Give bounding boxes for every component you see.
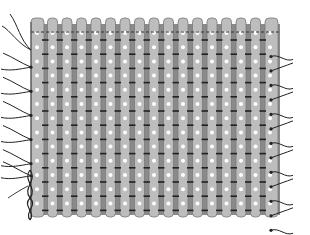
white-dot: [210, 201, 214, 205]
weft-bar: [100, 82, 107, 84]
weft-bar: [158, 68, 165, 70]
weft-bar: [187, 167, 194, 169]
white-dot: [65, 145, 69, 149]
white-dot: [225, 201, 229, 205]
white-dot: [109, 187, 113, 191]
weft-bar: [100, 39, 107, 41]
weft-bar: [158, 153, 165, 155]
white-dot: [109, 88, 113, 92]
weft-bar: [42, 153, 49, 155]
weft-bar: [115, 110, 122, 112]
left-thread: [10, 14, 31, 50]
left-thread: [8, 186, 28, 198]
white-dot: [254, 74, 258, 78]
white-dot: [35, 74, 39, 78]
white-dot: [35, 102, 39, 106]
white-dot: [138, 116, 142, 120]
weft-bar: [158, 96, 165, 98]
left-thread: [1, 67, 31, 70]
weft-bar: [57, 124, 64, 126]
white-dot: [80, 130, 84, 134]
weft-bar: [231, 110, 238, 112]
weft-bar: [86, 68, 93, 70]
white-dot: [181, 59, 185, 63]
weft-bar: [71, 82, 78, 84]
weft-bar: [158, 195, 165, 197]
white-dot: [65, 59, 69, 63]
white-dot: [109, 45, 113, 49]
weft-bar: [245, 53, 252, 55]
white-dot: [123, 116, 127, 120]
weft-bar: [100, 68, 107, 70]
white-dot: [196, 201, 200, 205]
weft-bar: [86, 181, 93, 183]
weft-bar: [57, 39, 64, 41]
white-dot: [109, 116, 113, 120]
white-dot: [196, 130, 200, 134]
weft-bar: [173, 110, 180, 112]
white-dot: [181, 159, 185, 163]
left-thread: [3, 77, 31, 91]
weft-bar: [231, 68, 238, 70]
white-dot: [210, 59, 214, 63]
white-dot: [239, 159, 243, 163]
white-dot: [225, 59, 229, 63]
white-dot: [254, 59, 258, 63]
weft-bar: [158, 82, 165, 84]
white-dot: [268, 130, 272, 134]
weft-bar: [245, 82, 252, 84]
white-dot: [196, 102, 200, 106]
weft-bar: [42, 195, 49, 197]
weft-bar: [100, 124, 107, 126]
white-dot: [138, 173, 142, 177]
weft-bar: [129, 210, 136, 212]
weft-bar: [202, 139, 209, 141]
white-dot: [80, 45, 84, 49]
white-dot: [94, 45, 98, 49]
weft-bar: [173, 124, 180, 126]
white-dot: [123, 45, 127, 49]
white-dot: [152, 88, 156, 92]
knot: [269, 171, 272, 174]
weft-bar: [71, 53, 78, 55]
weft-bar: [144, 167, 151, 169]
weft-bar: [86, 167, 93, 169]
weft-bar: [187, 210, 194, 212]
weft-bar: [231, 53, 238, 55]
weft-bar: [86, 210, 93, 212]
white-dot: [152, 187, 156, 191]
weft-bar: [173, 39, 180, 41]
weft-bar: [100, 195, 107, 197]
white-dot: [152, 59, 156, 63]
left-thread: [3, 101, 31, 115]
white-dot: [80, 59, 84, 63]
weft-bar: [71, 181, 78, 183]
white-dot: [65, 201, 69, 205]
weft-bar: [57, 68, 64, 70]
weft-bar: [86, 153, 93, 155]
weft-bar: [173, 68, 180, 70]
white-dot: [210, 102, 214, 106]
weft-bar: [71, 167, 78, 169]
weft-bar: [115, 153, 122, 155]
weft-bar: [245, 167, 252, 169]
weft-bar: [115, 139, 122, 141]
weft-bar: [216, 153, 223, 155]
weft-bar: [129, 181, 136, 183]
knot: [269, 142, 272, 145]
weft-bar: [245, 210, 252, 212]
weft-bar: [187, 110, 194, 112]
weft-bar: [187, 181, 194, 183]
knot: [269, 200, 272, 203]
white-dot: [167, 88, 171, 92]
weft-bar: [144, 53, 151, 55]
white-dot: [181, 102, 185, 106]
weft-bar: [42, 53, 49, 55]
white-dot: [51, 159, 55, 163]
white-dot: [35, 130, 39, 134]
weft-bar: [57, 96, 64, 98]
weft-bar: [202, 181, 209, 183]
weft-bar: [202, 210, 209, 212]
weft-bar: [71, 110, 78, 112]
white-dot: [196, 45, 200, 49]
